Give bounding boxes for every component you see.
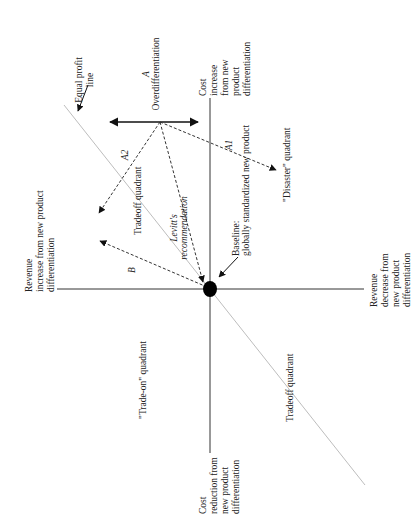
svg-text:decrease from: decrease from — [380, 253, 390, 307]
svg-text:B: B — [127, 267, 137, 273]
quadrant-tradeoff-lower: Tradeoff quadrant — [285, 353, 295, 422]
svg-text:new product: new product — [391, 259, 401, 307]
svg-text:Cost: Cost — [198, 496, 208, 514]
quadrant-trade-on: "Trade-on" quadrant — [138, 341, 148, 419]
svg-text:recommendation: recommendation — [179, 196, 189, 260]
svg-text:Levitt's: Levitt's — [169, 214, 179, 243]
baseline-dot — [203, 281, 217, 297]
levitt-label: Levitt's recommendation — [169, 196, 189, 260]
svg-text:Revenue: Revenue — [24, 259, 34, 292]
svg-text:"Trade-on" quadrant: "Trade-on" quadrant — [138, 341, 148, 419]
axis-label-top: Cost increase from new product different… — [198, 42, 252, 96]
svg-text:reduction from: reduction from — [209, 457, 219, 514]
svg-text:differentiation: differentiation — [231, 460, 241, 514]
svg-text:A: A — [141, 71, 151, 78]
point-a-label: A Overdifferentiation — [141, 37, 161, 110]
strategy-diagram: Equal profit line A Overdifferentiation … — [0, 0, 420, 522]
svg-text:Revenue: Revenue — [369, 274, 379, 307]
axis-label-left: Revenue increase from new product differ… — [24, 190, 56, 292]
svg-text:product: product — [231, 67, 241, 96]
arrow-a1 — [160, 122, 276, 170]
svg-text:Tradeoff quadrant: Tradeoff quadrant — [133, 166, 143, 235]
svg-text:Cost: Cost — [198, 78, 208, 96]
svg-text:Tradeoff quadrant: Tradeoff quadrant — [285, 353, 295, 422]
svg-text:from new: from new — [220, 59, 230, 96]
svg-text:A2: A2 — [120, 149, 130, 161]
svg-text:line: line — [85, 73, 95, 87]
b-label: B — [127, 267, 137, 273]
svg-text:differentiation: differentiation — [402, 253, 412, 307]
svg-text:new product: new product — [220, 466, 230, 514]
baseline-pointer — [219, 257, 238, 277]
svg-text:differentiation: differentiation — [46, 238, 56, 292]
svg-text:increase from new product: increase from new product — [35, 190, 45, 292]
quadrant-tradeoff-upper: Tradeoff quadrant — [133, 166, 143, 235]
arrow-b — [100, 241, 207, 287]
svg-text:increase: increase — [209, 65, 219, 96]
svg-text:Baseline:: Baseline: — [231, 221, 241, 256]
svg-text:Overdifferentiation: Overdifferentiation — [151, 37, 161, 110]
svg-text:globally standardized new prod: globally standardized new product — [241, 125, 251, 256]
axis-label-right: Revenue decrease from new product differ… — [369, 253, 412, 307]
equal-profit-label: Equal profit line — [74, 57, 95, 103]
arrow-a2 — [99, 122, 160, 213]
svg-text:A1: A1 — [224, 140, 234, 152]
baseline-label: Baseline: globally standardized new prod… — [231, 125, 251, 256]
svg-text:Equal profit: Equal profit — [74, 57, 84, 103]
a2-label: A2 — [120, 149, 130, 161]
axis-label-bottom: Cost reduction from new product differen… — [198, 457, 241, 514]
a1-label: A1 — [224, 140, 234, 152]
svg-text:"Disaster" quadrant: "Disaster" quadrant — [282, 127, 292, 202]
svg-text:differentiation: differentiation — [242, 42, 252, 96]
quadrant-disaster: "Disaster" quadrant — [282, 127, 292, 202]
